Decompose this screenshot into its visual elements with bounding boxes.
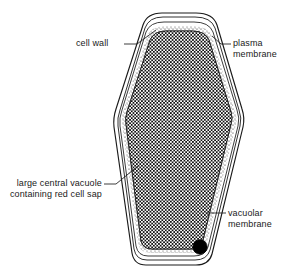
label-vacuolar-membrane-line2: membrane — [228, 219, 272, 230]
nucleus-dot — [193, 240, 207, 254]
label-cell-wall-text: cell wall — [76, 38, 108, 48]
label-plasma-membrane-line2: membrane — [233, 49, 277, 60]
label-plasma-membrane: plasma membrane — [233, 38, 277, 60]
label-vacuolar-membrane: vacuolar membrane — [228, 208, 272, 230]
label-central-vacuole: large central vacuole containing red cel… — [10, 178, 102, 200]
label-plasma-membrane-line1: plasma — [233, 38, 263, 48]
figure-canvas: cell wall plasma membrane large central … — [0, 0, 297, 273]
label-cell-wall: cell wall — [76, 38, 108, 49]
label-vacuolar-membrane-line1: vacuolar — [228, 208, 263, 218]
label-central-vacuole-line2: containing red cell sap — [10, 189, 102, 200]
label-central-vacuole-line1: large central vacuole — [17, 178, 102, 188]
